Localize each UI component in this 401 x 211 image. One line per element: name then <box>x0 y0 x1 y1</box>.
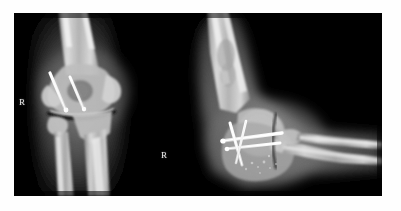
radiograph-film: R R <box>14 13 382 196</box>
film-grain <box>14 13 382 196</box>
side-marker-ap: R <box>19 98 25 107</box>
radiograph-figure: R R <box>0 0 401 211</box>
side-marker-lateral: R <box>161 151 167 160</box>
radiograph-canvas <box>14 13 382 196</box>
